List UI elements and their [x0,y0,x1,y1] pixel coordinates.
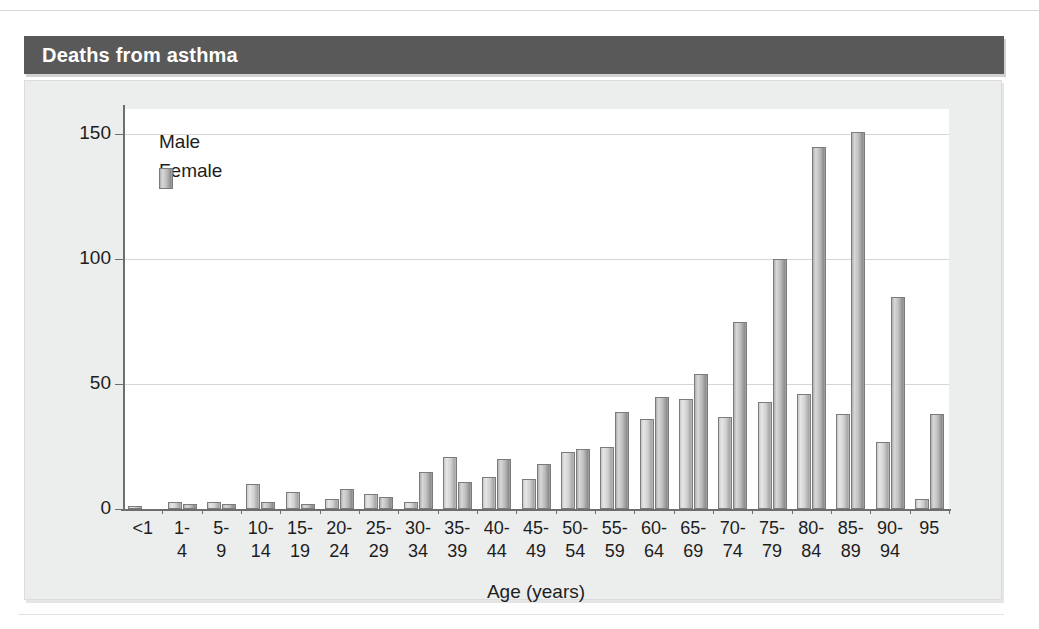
bar-female [261,502,275,510]
bar-male [128,506,142,509]
x-tick [162,509,163,514]
x-tick [713,509,714,514]
x-tick-label-line: 1- [162,517,201,540]
figure-panel: Deaths from asthma 050100150 <11-45-910-… [18,36,1004,602]
x-axis-title: Age (years) [123,581,949,603]
bar-female [891,297,905,510]
x-tick-label-line: 94 [870,540,909,563]
bar-group [836,109,865,509]
x-tick-label: 50-54 [556,517,595,563]
x-tick-label: 70-74 [713,517,752,563]
x-tick-label-line: 74 [713,540,752,563]
x-tick-label-line: 89 [831,540,870,563]
x-tick [634,509,635,514]
x-tick [752,509,753,514]
bar-female [497,459,511,509]
bar-group [404,109,433,509]
x-tick-label-line: 90- [870,517,909,540]
bar-female [694,374,708,509]
x-tick [792,509,793,514]
y-tick [115,134,123,135]
bar-female [733,322,747,510]
x-tick-label-line: 49 [516,540,555,563]
x-tick-label-line: 40- [477,517,516,540]
x-tick-label-line: 9 [202,540,241,563]
x-tick-label-line: 29 [359,540,398,563]
chart-legend: Male Female [159,131,222,189]
bar-female [301,504,315,509]
x-tick [320,509,321,514]
x-tick-label-line: 20- [320,517,359,540]
bar-male [207,502,221,510]
x-tick-label-line: <1 [123,517,162,540]
page-bottom-rule [18,614,1004,615]
x-tick-label-line: 80- [792,517,831,540]
bar-group [364,109,393,509]
x-tick [477,509,478,514]
x-tick [280,509,281,514]
bar-group [286,109,315,509]
x-tick-label: 1-4 [162,517,201,563]
x-tick [438,509,439,514]
bar-female [615,412,629,510]
x-tick-label: 25-29 [359,517,398,563]
bar-female [851,132,865,510]
y-tick-label: 0 [57,497,111,519]
bar-female [222,504,236,509]
x-tick [241,509,242,514]
bar-female [655,397,669,510]
chart-plot: 050100150 <11-45-910-1415-1920-2425-2930… [123,109,949,509]
x-tick-label: 30-34 [398,517,437,563]
y-tick-label: 150 [57,122,111,144]
bar-group [325,109,354,509]
x-tick-label: 40-44 [477,517,516,563]
x-tick [202,509,203,514]
x-tick-label-line: 34 [398,540,437,563]
x-tick [516,509,517,514]
bar-group [561,109,590,509]
x-tick-label-line: 30- [398,517,437,540]
bar-female [537,464,551,509]
x-tick-label-line: 44 [477,540,516,563]
x-tick [398,509,399,514]
bar-group [246,109,275,509]
bar-male [443,457,457,510]
bar-group [758,109,787,509]
y-tick-label: 50 [57,372,111,394]
bar-male [876,442,890,510]
bar-male [679,399,693,509]
bar-female [183,504,197,509]
bar-female [773,259,787,509]
x-tick [556,509,557,514]
bar-female [576,449,590,509]
bar-female [340,489,354,509]
x-tick-label-line: 45- [516,517,555,540]
x-tick [359,509,360,514]
x-tick-label-line: 10- [241,517,280,540]
x-tick-label-line: 35- [438,517,477,540]
x-tick-label-line: 65- [674,517,713,540]
x-tick-label-line: 54 [556,540,595,563]
x-tick-label-line: 85- [831,517,870,540]
bar-group [600,109,629,509]
x-tick-label-line: 24 [320,540,359,563]
bar-male [640,419,654,509]
bar-groups [123,109,949,509]
x-tick [595,509,596,514]
bar-male [915,499,929,509]
bar-male [364,494,378,509]
x-tick-label: <1 [123,517,162,540]
bar-male [404,502,418,510]
bar-group [718,109,747,509]
y-tick [115,384,123,385]
x-tick-label: 20-24 [320,517,359,563]
y-tick-label: 100 [57,247,111,269]
x-tick-label-line: 95 [910,517,949,540]
x-tick-label: 55-59 [595,517,634,563]
x-tick-label: 75-79 [752,517,791,563]
bar-group [679,109,708,509]
bar-male [718,417,732,510]
x-tick-label: 95 [910,517,949,540]
bar-male [758,402,772,510]
bar-group [128,109,157,509]
